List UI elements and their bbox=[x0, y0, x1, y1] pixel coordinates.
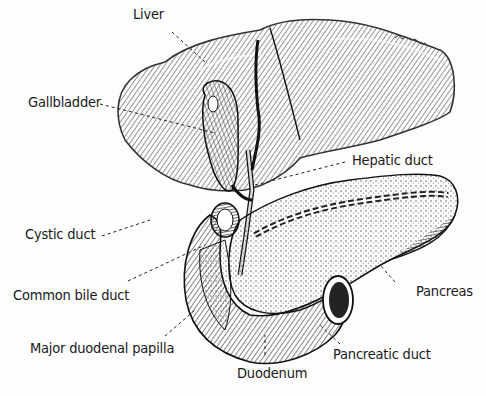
label-cystic-duct: Cystic duct bbox=[25, 226, 95, 242]
label-pancreatic-duct: Pancreatic duct bbox=[333, 346, 431, 362]
label-liver: Liver bbox=[133, 6, 164, 22]
anatomy-diagram: Liver Gallbladder Hepatic duct Cystic du… bbox=[0, 0, 486, 396]
label-gallbladder: Gallbladder bbox=[28, 94, 101, 110]
label-pancreas: Pancreas bbox=[416, 283, 473, 299]
label-major-duodenal-papilla: Major duodenal papilla bbox=[30, 340, 174, 356]
leader-cystic-duct bbox=[102, 220, 150, 236]
anatomy-illustration bbox=[0, 0, 486, 396]
label-duodenum: Duodenum bbox=[237, 365, 307, 381]
leader-pancreas bbox=[380, 265, 395, 282]
label-hepatic-duct: Hepatic duct bbox=[352, 152, 433, 168]
label-common-bile-duct: Common bile duct bbox=[13, 287, 129, 303]
